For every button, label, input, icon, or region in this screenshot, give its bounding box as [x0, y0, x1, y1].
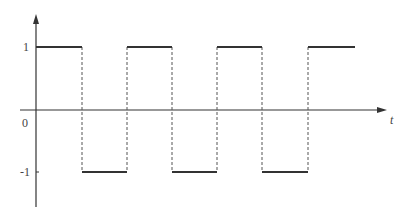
- x-axis-arrow-icon: [377, 107, 387, 113]
- x-axis-label-t: t: [390, 113, 394, 127]
- y-axis-arrow-icon: [33, 14, 39, 24]
- square-wave-chart: 1 0 -1 t: [0, 0, 409, 219]
- y-label-one: 1: [23, 40, 29, 54]
- y-label-minus-one: -1: [20, 165, 30, 179]
- y-label-zero: 0: [22, 116, 28, 130]
